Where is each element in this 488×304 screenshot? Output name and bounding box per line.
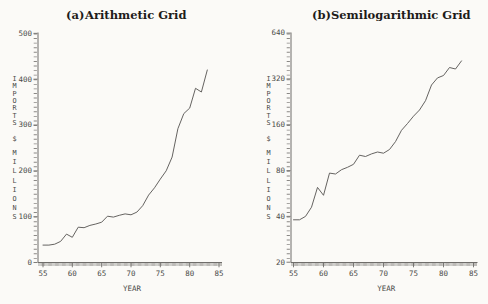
y-tick-label: 100 bbox=[18, 212, 32, 221]
x-tick-label: 55 bbox=[38, 269, 47, 278]
y-axis-title-letter: N bbox=[12, 204, 16, 212]
y-axis-title-letter: I bbox=[12, 158, 16, 166]
panel-semilogarithmic-grid: (b) Semilogarithmic Grid 640320160804020… bbox=[244, 0, 488, 304]
y-axis-title-letter: I bbox=[266, 158, 270, 166]
y-axis-title-letter: I bbox=[266, 186, 270, 194]
x-axis-title: YEAR bbox=[377, 284, 396, 293]
y-axis-title-letter: S bbox=[12, 213, 16, 221]
x-tick-label: 80 bbox=[185, 269, 195, 278]
x-tick-label: 65 bbox=[349, 269, 358, 278]
panel-arithmetic-grid: (a) Arithmetic Grid 50040030020010005560… bbox=[0, 0, 244, 304]
x-tick-label: 85 bbox=[469, 269, 478, 278]
y-axis-title-letter: L bbox=[266, 167, 270, 175]
y-axis-title-letter: M bbox=[12, 149, 16, 157]
y-axis-title-letter: O bbox=[266, 195, 270, 203]
x-tick-label: 70 bbox=[379, 269, 389, 278]
imports-series-line bbox=[43, 70, 207, 245]
y-tick-label: 320 bbox=[271, 74, 285, 83]
y-axis-title-letter: I bbox=[12, 186, 16, 194]
y-tick-label: 640 bbox=[271, 28, 285, 37]
x-tick-label: 80 bbox=[439, 269, 449, 278]
imports-series-line bbox=[294, 61, 462, 220]
y-axis-title-letter: S bbox=[266, 119, 270, 127]
y-tick-label: 300 bbox=[18, 120, 32, 129]
y-tick-label: 80 bbox=[276, 166, 286, 175]
y-axis-title-letter: S bbox=[266, 213, 270, 221]
x-tick-label: 75 bbox=[156, 269, 165, 278]
x-tick-label: 65 bbox=[97, 269, 106, 278]
y-axis-title-letter: $ bbox=[12, 135, 16, 143]
y-axis-title-letter: L bbox=[12, 167, 16, 175]
x-tick-label: 60 bbox=[68, 269, 78, 278]
y-tick-label: 160 bbox=[271, 120, 285, 129]
y-axis-title-letter: S bbox=[12, 119, 16, 127]
x-tick-label: 75 bbox=[409, 269, 418, 278]
y-tick-label: 40 bbox=[276, 212, 286, 221]
y-tick-label: 500 bbox=[18, 29, 32, 38]
x-axis-title: YEAR bbox=[123, 284, 142, 293]
y-axis-title-letter: $ bbox=[266, 135, 270, 143]
x-tick-label: 60 bbox=[319, 269, 329, 278]
chart-a-title-prefix: (a) bbox=[66, 8, 84, 22]
chart-b-title: Semilogarithmic Grid bbox=[331, 8, 471, 22]
y-axis-title-letter: M bbox=[266, 149, 270, 157]
x-tick-label: 55 bbox=[289, 269, 298, 278]
y-tick-label: 0 bbox=[27, 258, 32, 267]
y-axis-title-letter: L bbox=[266, 177, 270, 185]
figure-imports-two-grids: (a) Arithmetic Grid 50040030020010005560… bbox=[0, 0, 488, 304]
y-axis-title-letter: L bbox=[12, 177, 16, 185]
x-tick-label: 70 bbox=[126, 269, 136, 278]
semilogarithmic-grid-chart-canvas: (b) Semilogarithmic Grid 640320160804020… bbox=[244, 0, 488, 304]
y-axis-title-letter: N bbox=[266, 204, 270, 212]
chart-b-title-prefix: (b) bbox=[312, 8, 331, 22]
y-tick-label: 20 bbox=[276, 258, 286, 267]
y-tick-label: 200 bbox=[18, 166, 32, 175]
y-tick-label: 400 bbox=[18, 75, 32, 84]
x-tick-label: 85 bbox=[214, 269, 223, 278]
y-axis-title-letter: O bbox=[12, 195, 16, 203]
chart-a-title: Arithmetic Grid bbox=[84, 8, 186, 22]
arithmetic-grid-chart-canvas: (a) Arithmetic Grid 50040030020010005560… bbox=[0, 0, 244, 304]
